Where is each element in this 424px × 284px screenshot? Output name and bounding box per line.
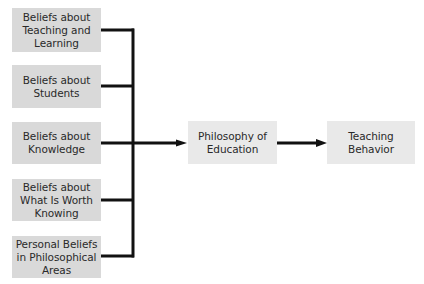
box-label: Beliefs about What Is Worth Knowing	[20, 181, 93, 220]
source-box-knowledge: Beliefs about Knowledge	[12, 122, 101, 164]
arrowhead-icon	[316, 139, 327, 147]
box-label: Personal Beliefs in Philosophical Areas	[16, 238, 98, 277]
source-box-students: Beliefs about Students	[12, 65, 101, 108]
source-box-personal-beliefs: Personal Beliefs in Philosophical Areas	[12, 236, 101, 278]
box-label: Philosophy of Education	[198, 130, 267, 156]
box-label: Beliefs about Knowledge	[23, 130, 90, 156]
source-box-worth-knowing: Beliefs about What Is Worth Knowing	[12, 179, 101, 221]
teaching-behavior-box: Teaching Behavior	[327, 121, 415, 164]
source-box-teaching-learning: Beliefs about Teaching and Learning	[12, 8, 101, 52]
box-label: Teaching Behavior	[348, 130, 394, 156]
arrowhead-icon	[176, 140, 187, 147]
philosophy-of-education-box: Philosophy of Education	[188, 121, 277, 164]
box-label: Beliefs about Students	[23, 74, 90, 100]
box-label: Beliefs about Teaching and Learning	[22, 11, 90, 50]
